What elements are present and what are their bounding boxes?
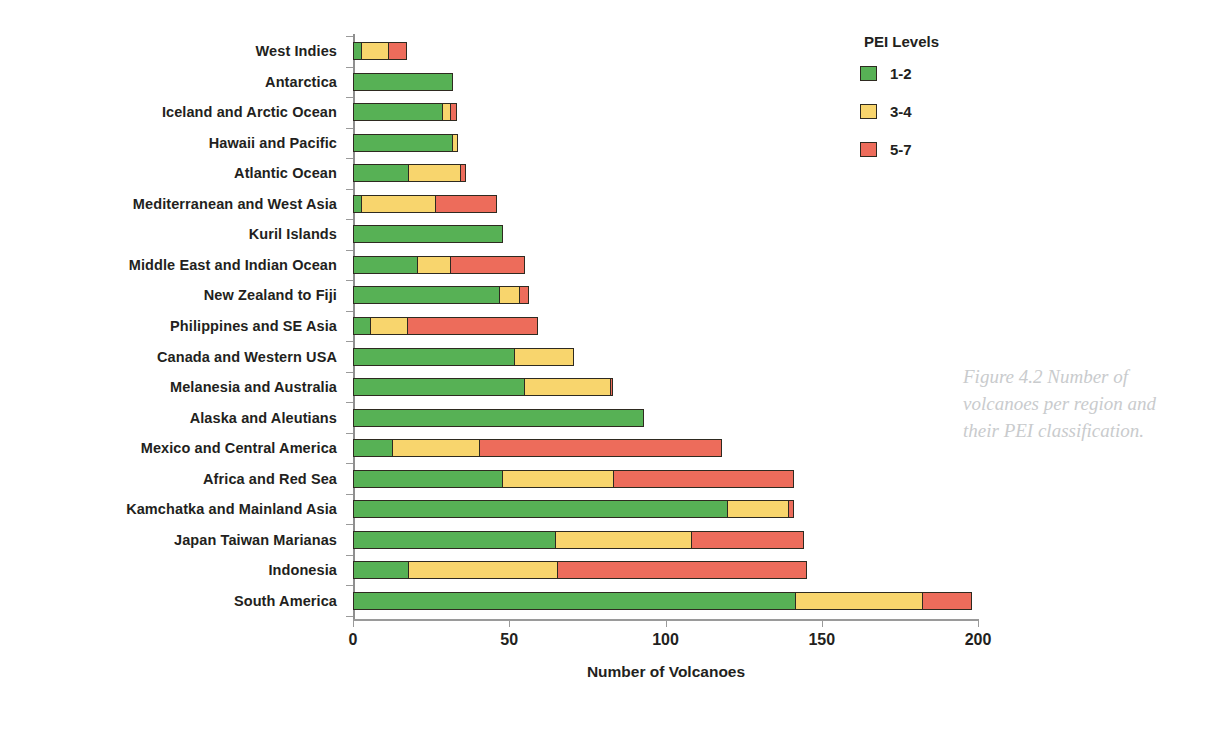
y-axis-category-label: Atlantic Ocean — [234, 165, 337, 181]
legend-title: PEI Levels — [864, 33, 1060, 50]
bar-row — [353, 531, 804, 549]
y-axis-tick — [346, 219, 353, 220]
y-axis-tick — [346, 67, 353, 68]
y-axis-category-label: Middle East and Indian Ocean — [129, 257, 337, 273]
bar-segment — [610, 378, 613, 396]
bar-row — [353, 225, 503, 243]
bar-row — [353, 317, 538, 335]
y-axis-tick — [346, 402, 353, 403]
y-axis-tick — [346, 585, 353, 586]
x-axis-tick-label: 150 — [808, 631, 835, 649]
bar-segment — [691, 531, 804, 549]
bar-segment — [557, 561, 807, 579]
bar-segment — [922, 592, 972, 610]
bar-segment — [499, 286, 521, 304]
y-axis-tick — [346, 250, 353, 251]
x-axis-tick-label: 100 — [652, 631, 679, 649]
bar-segment — [524, 378, 612, 396]
bar-segment — [370, 317, 408, 335]
y-axis-tick — [346, 372, 353, 373]
bar-row — [353, 561, 807, 579]
legend-item[interactable]: 1-2 — [860, 65, 1060, 82]
bar-row — [353, 409, 644, 427]
y-axis-tick — [346, 616, 353, 617]
bar-segment — [353, 592, 797, 610]
legend-items: 1-23-45-7 — [860, 65, 1060, 158]
bar-segment — [353, 500, 728, 518]
y-axis-category-label: Philippines and SE Asia — [170, 318, 337, 334]
bar-segment — [353, 561, 409, 579]
bar-segment — [450, 256, 525, 274]
bar-segment — [361, 42, 389, 60]
x-axis-tick-label: 0 — [349, 631, 358, 649]
y-axis-category-label: Iceland and Arctic Ocean — [162, 104, 337, 120]
bar-row — [353, 439, 722, 457]
bar-segment — [353, 439, 394, 457]
bar-segment — [353, 348, 516, 366]
bar-segment — [353, 134, 453, 152]
y-axis-tick — [346, 189, 353, 190]
y-axis-category-label: West Indies — [256, 43, 337, 59]
y-axis-category-label: Hawaii and Pacific — [209, 135, 337, 151]
bar-segment — [450, 103, 456, 121]
x-axis-tick-label: 200 — [965, 631, 992, 649]
x-axis-tick-label: 50 — [500, 631, 518, 649]
bar-segment — [353, 103, 444, 121]
bar-segment — [408, 561, 558, 579]
y-axis-tick — [346, 463, 353, 464]
legend-label: 1-2 — [890, 65, 912, 82]
bar-row — [353, 378, 613, 396]
legend-label: 3-4 — [890, 103, 912, 120]
y-axis-tick — [346, 555, 353, 556]
bar-segment — [417, 256, 451, 274]
bar-row — [353, 500, 794, 518]
bar-segment — [353, 378, 525, 396]
x-axis-tick — [978, 619, 979, 627]
bar-row — [353, 592, 972, 610]
x-axis-tick — [509, 619, 510, 627]
bar-segment — [555, 531, 693, 549]
y-axis-category-label: Mexico and Central America — [141, 440, 337, 456]
x-axis-tick — [353, 619, 354, 627]
figure-caption: Figure 4.2 Number of volcanoes per regio… — [963, 363, 1173, 444]
bar-segment — [353, 409, 644, 427]
bar-row — [353, 103, 457, 121]
bar-segment — [408, 164, 461, 182]
x-axis-title: Number of Volcanoes — [353, 663, 979, 681]
bar-segment — [353, 317, 372, 335]
y-axis-category-label: Africa and Red Sea — [203, 471, 337, 487]
bar-segment — [452, 134, 458, 152]
bar-segment — [353, 164, 409, 182]
bar-segment — [613, 470, 794, 488]
bar-segment — [353, 225, 503, 243]
y-axis-category-label: Antarctica — [265, 74, 337, 90]
bar-segment — [435, 195, 498, 213]
y-axis-tick — [346, 311, 353, 312]
bar-segment — [727, 500, 790, 518]
bar-segment — [514, 348, 573, 366]
x-axis-tick — [822, 619, 823, 627]
bar-segment — [788, 500, 794, 518]
figure-volcanoes-per-region: West IndiesAntarcticaIceland and Arctic … — [0, 0, 1205, 729]
legend-swatch-icon — [860, 66, 877, 81]
y-axis-category-labels: West IndiesAntarcticaIceland and Arctic … — [0, 36, 345, 616]
bar-row — [353, 164, 466, 182]
legend-item[interactable]: 5-7 — [860, 141, 1060, 158]
y-axis-category-label: Japan Taiwan Marianas — [174, 532, 337, 548]
bar-segment — [502, 470, 615, 488]
legend-label: 5-7 — [890, 141, 912, 158]
y-axis-category-label: South America — [234, 593, 337, 609]
bar-segment — [388, 42, 407, 60]
legend: PEI Levels 1-23-45-7 — [860, 33, 1060, 179]
y-axis-category-label: Kuril Islands — [249, 226, 337, 242]
legend-swatch-icon — [860, 142, 877, 157]
y-axis-tick — [346, 158, 353, 159]
y-axis-tick — [346, 128, 353, 129]
bar-segment — [407, 317, 538, 335]
bar-segment — [392, 439, 480, 457]
y-axis-tick — [346, 524, 353, 525]
y-axis-tick — [346, 97, 353, 98]
bar-row — [353, 256, 525, 274]
bar-row — [353, 42, 407, 60]
legend-item[interactable]: 3-4 — [860, 103, 1060, 120]
